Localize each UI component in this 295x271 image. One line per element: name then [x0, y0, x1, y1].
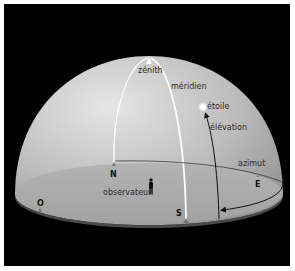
zenith-label: zénith — [138, 65, 163, 75]
west-label: O — [37, 199, 44, 208]
observer-label: observateur — [103, 188, 152, 197]
star-icon — [201, 105, 205, 109]
azimuth-label: azimut — [238, 159, 265, 168]
north-label: N — [110, 170, 117, 179]
celestial-dome-diagram: zénith méridien étoile élévation azimut … — [0, 0, 295, 271]
south-label: S — [176, 209, 182, 218]
east-label: E — [255, 180, 260, 189]
elevation-label: élévation — [210, 122, 247, 132]
meridian-label: méridien — [171, 81, 207, 91]
star-label: étoile — [207, 101, 229, 111]
